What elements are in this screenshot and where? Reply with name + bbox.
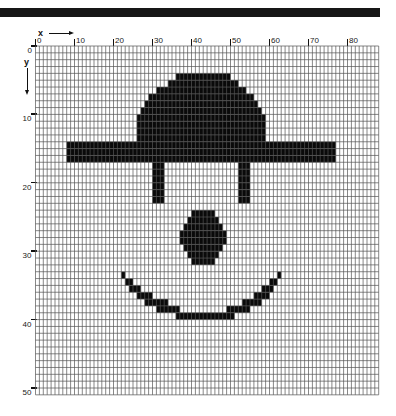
right-eye-cells	[238, 196, 250, 203]
right-eye-cells	[238, 162, 250, 169]
left-eye-cells	[153, 162, 165, 169]
right-eye-cells	[238, 176, 250, 183]
hat-brim-cells	[67, 155, 336, 162]
left-eye-cells	[153, 176, 165, 183]
left-eye-cells	[153, 169, 165, 176]
mouth-cells	[277, 272, 281, 279]
mouth-cells	[176, 313, 235, 320]
left-eye-cells	[153, 196, 165, 203]
hat-brim-cells	[67, 142, 336, 149]
right-eye-cells	[238, 183, 250, 190]
mouth-cells	[242, 299, 262, 306]
right-eye-cells	[238, 190, 250, 197]
hat-brim-cells	[67, 149, 336, 156]
mouth-cells	[121, 272, 125, 279]
mouth-cells	[129, 285, 141, 292]
left-eye-cells	[153, 183, 165, 190]
hat-dome-cells	[156, 87, 246, 94]
hat-dome-cells	[145, 101, 258, 108]
pixel-grid	[0, 0, 396, 416]
mouth-cells	[262, 285, 274, 292]
left-eye-cells	[153, 190, 165, 197]
hat-dome-cells	[141, 108, 262, 115]
right-eye-cells	[238, 169, 250, 176]
